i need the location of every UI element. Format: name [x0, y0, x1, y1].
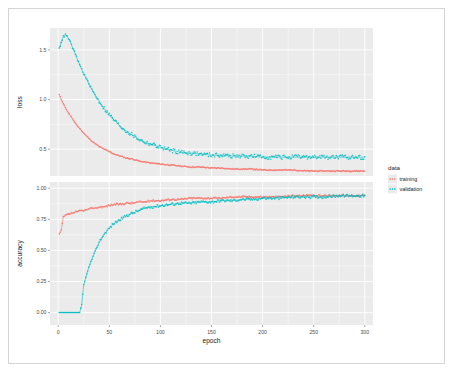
data-point [181, 150, 183, 152]
legend-label-training: training [400, 176, 418, 182]
data-point [164, 206, 166, 208]
data-point [335, 155, 337, 157]
data-point [284, 156, 286, 158]
data-point [147, 200, 149, 202]
data-point [150, 206, 152, 208]
data-point [266, 157, 268, 159]
data-point [279, 196, 281, 198]
data-point [177, 202, 179, 204]
data-point [97, 98, 99, 100]
data-point [333, 195, 335, 197]
data-point [98, 241, 100, 243]
data-point [232, 153, 234, 155]
data-point [354, 157, 356, 159]
data-point [90, 86, 92, 88]
data-point [127, 131, 129, 133]
data-point [336, 156, 338, 158]
data-point [173, 198, 175, 200]
data-point [172, 152, 174, 154]
point-key-icon [394, 188, 396, 190]
data-point [216, 201, 218, 203]
data-point [272, 198, 274, 200]
data-point [227, 154, 229, 156]
data-point [152, 199, 154, 201]
data-point [213, 154, 215, 156]
data-point [123, 216, 125, 218]
data-point [273, 196, 275, 198]
data-point [70, 41, 72, 43]
data-point [69, 39, 71, 41]
data-point [268, 158, 270, 160]
data-point [64, 105, 66, 107]
data-point [245, 155, 247, 157]
data-point [178, 165, 180, 167]
data-point [94, 250, 96, 252]
data-point [312, 155, 314, 157]
data-point [212, 200, 214, 202]
data-point [212, 198, 214, 200]
data-point [147, 143, 149, 145]
data-point [63, 103, 65, 105]
data-point [105, 112, 107, 114]
data-point [160, 145, 162, 147]
data-point [242, 198, 244, 200]
data-point [116, 120, 118, 122]
data-point [311, 157, 313, 159]
data-point [190, 197, 192, 199]
data-point [111, 115, 113, 117]
data-point [322, 198, 324, 200]
data-point [59, 231, 61, 233]
data-point [125, 216, 127, 218]
data-point [240, 197, 242, 199]
data-point [359, 155, 361, 157]
data-point [334, 157, 336, 159]
data-point [180, 204, 182, 206]
chart-svg: 0.51.01.5loss0.000.250.500.751.00accurac… [0, 0, 453, 372]
data-point [275, 155, 277, 157]
data-point [196, 151, 198, 153]
data-point [110, 205, 112, 207]
data-point [178, 149, 180, 151]
data-point [234, 155, 236, 157]
data-point [201, 152, 203, 154]
data-point [91, 88, 93, 90]
data-point [256, 156, 258, 158]
data-point [320, 158, 322, 160]
data-point [270, 158, 272, 160]
data-point [278, 199, 280, 201]
point-key-icon [392, 178, 394, 180]
data-point [239, 157, 241, 159]
data-point [75, 123, 77, 125]
data-point [345, 154, 347, 156]
data-point [191, 154, 193, 156]
data-point [60, 99, 62, 101]
data-point [74, 50, 76, 52]
data-point [104, 111, 106, 113]
data-point [70, 115, 72, 117]
data-point [364, 195, 366, 197]
data-point [82, 71, 84, 73]
data-point [347, 194, 349, 196]
data-point [315, 156, 317, 158]
data-point [234, 199, 236, 201]
data-point [164, 146, 166, 148]
data-point [102, 108, 104, 110]
data-point [151, 144, 153, 146]
data-point [314, 154, 316, 156]
data-point [352, 155, 354, 157]
data-point [93, 253, 95, 255]
data-point [269, 156, 271, 158]
data-point [216, 152, 218, 154]
legend-title: data [388, 164, 401, 171]
data-point [174, 149, 176, 151]
data-point [291, 195, 293, 197]
data-point [78, 126, 80, 128]
data-point [139, 140, 141, 142]
data-point [75, 54, 77, 56]
data-point [91, 259, 93, 261]
data-point [93, 92, 95, 94]
data-point [237, 156, 239, 158]
x-tick-label: 200 [258, 329, 267, 335]
data-point [343, 194, 345, 196]
data-point [260, 154, 262, 156]
